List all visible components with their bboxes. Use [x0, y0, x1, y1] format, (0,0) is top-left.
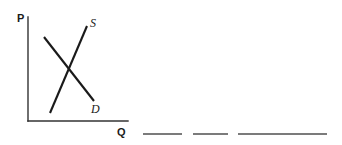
supply-curve-label: S — [90, 16, 96, 30]
figure-canvas: P Q S D — [0, 0, 342, 145]
price-axis-label: P — [17, 12, 24, 24]
quantity-axis-label: Q — [117, 126, 126, 138]
demand-curve-label: D — [90, 102, 100, 116]
supply-demand-figure: P Q S D — [0, 0, 342, 145]
demand-curve-line — [44, 37, 94, 101]
